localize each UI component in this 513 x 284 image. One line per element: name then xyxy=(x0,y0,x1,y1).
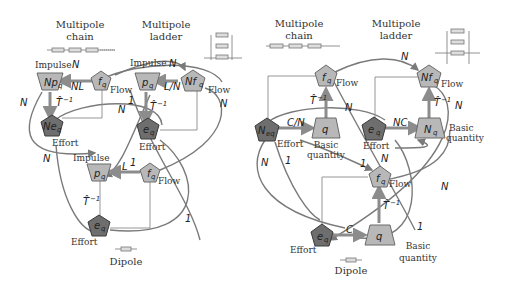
label-basic-quantity-l1: Basic xyxy=(449,123,474,133)
node-N-eq: Neq xyxy=(255,118,279,141)
label-flow: Flow xyxy=(389,179,412,189)
edge-label-N: N xyxy=(72,59,80,70)
svg-text:q: q xyxy=(150,129,155,137)
title-multipole-chain-l2: chain xyxy=(285,30,313,41)
left-panel: Multipole chain Multipole ladder xyxy=(20,19,242,267)
edge-label-L: L xyxy=(122,161,128,172)
label-flow: Flow xyxy=(208,85,231,95)
svg-text:q: q xyxy=(324,236,329,244)
edge-label-T-inv: T̂ xyxy=(83,195,90,207)
label-basic-quantity-l1: Basic xyxy=(314,140,339,150)
node-f-q-bot: fq xyxy=(369,166,391,187)
node-N-q: Nq xyxy=(415,118,445,138)
svg-text:−1: −1 xyxy=(390,199,400,207)
node-e-q-mid: eq xyxy=(362,117,386,140)
edge-label-T-inv: T̂ xyxy=(434,96,441,108)
label-impulse: Impulse xyxy=(73,153,109,163)
svg-text:q: q xyxy=(101,225,106,233)
node-e-q-mid: eq xyxy=(137,118,159,139)
node-Nf-q: Nfq xyxy=(417,65,441,87)
edge-label-N: N xyxy=(441,181,449,192)
node-q-top: q xyxy=(312,118,340,138)
edge-label-N: N xyxy=(455,100,463,111)
svg-text:q: q xyxy=(199,81,204,89)
chain-resistor-icon xyxy=(266,44,340,48)
svg-text:e: e xyxy=(94,220,100,231)
dipole-resistor-icon xyxy=(115,247,137,251)
edge-label-N: N xyxy=(118,104,126,115)
label-effort: Effort xyxy=(290,245,317,255)
edge-label-T-inv: T̂ xyxy=(310,94,317,106)
svg-text:−1: −1 xyxy=(157,100,167,108)
title-multipole-ladder-l1: Multipole xyxy=(372,18,421,29)
dipole-resistor-icon xyxy=(340,258,362,262)
edge-label-N: N xyxy=(20,97,28,108)
node-f-q-top: fq xyxy=(315,65,337,86)
svg-text:e: e xyxy=(143,124,149,135)
edge-label-N: N xyxy=(169,58,177,69)
bond-graph-diagram: Multipole chain Multipole ladder xyxy=(0,0,513,284)
node-q-bot: q xyxy=(365,225,395,245)
svg-text:p: p xyxy=(141,77,148,88)
title-multipole-ladder-l2: ladder xyxy=(150,31,183,42)
ladder-resistor-icon xyxy=(204,33,242,60)
title-multipole-chain-l1: Multipole xyxy=(56,19,105,30)
right-panel: Multipole chain Multipole ladder xyxy=(255,18,485,276)
svg-text:q: q xyxy=(57,126,62,134)
node-Nf-q: Nfq xyxy=(181,70,205,91)
svg-text:eq: eq xyxy=(266,130,275,138)
svg-text:N: N xyxy=(258,125,266,136)
edge-label-T-inv: T̂ xyxy=(383,199,390,211)
node-Np-q: Npq xyxy=(37,73,63,90)
label-effort: Effort xyxy=(363,141,390,151)
label-flow: Flow xyxy=(110,85,133,95)
svg-text:Nf: Nf xyxy=(421,72,433,83)
edge-label-1: 1 xyxy=(130,157,136,168)
svg-text:Nf: Nf xyxy=(185,76,197,87)
node-f-q-bot: fq xyxy=(140,163,160,182)
title-dipole: Dipole xyxy=(335,265,368,276)
svg-text:q: q xyxy=(381,178,386,186)
edge-label-1: 1 xyxy=(360,158,366,169)
edge-label-N: N xyxy=(381,153,389,164)
svg-text:q: q xyxy=(151,173,156,181)
label-impulse: Impulse xyxy=(35,60,71,70)
label-flow: Flow xyxy=(336,78,359,88)
svg-text:p: p xyxy=(93,168,100,179)
svg-text:q: q xyxy=(149,82,154,90)
svg-text:q: q xyxy=(101,173,106,181)
svg-text:Np: Np xyxy=(44,77,58,88)
edge-label-N: N xyxy=(345,102,353,113)
edge-label-LN: L/N xyxy=(164,81,181,92)
edge-label-N: N xyxy=(220,98,228,109)
label-flow: Flow xyxy=(441,79,464,89)
node-f-q-top: fq xyxy=(91,71,111,90)
label-effort: Effort xyxy=(277,139,304,149)
label-basic-quantity-l2: quantity xyxy=(307,150,346,160)
label-effort: Effort xyxy=(139,142,166,152)
edge-label-NL: NL xyxy=(71,81,84,92)
edge-label-NC: NC xyxy=(393,117,407,128)
node-e-q-bot: eq xyxy=(88,215,110,236)
title-dipole: Dipole xyxy=(110,256,143,267)
label-basic-quantity-l2: quantity xyxy=(446,133,485,143)
title-multipole-chain-l1: Multipole xyxy=(275,18,324,29)
label-effort: Effort xyxy=(71,237,98,247)
edge-label-1: 1 xyxy=(417,221,423,232)
svg-text:q: q xyxy=(322,124,328,135)
svg-text:q: q xyxy=(58,82,63,90)
edge-label-N: N xyxy=(261,157,269,168)
node-p-q-top: pq xyxy=(135,73,160,90)
svg-text:Ne: Ne xyxy=(43,121,57,132)
edge-link xyxy=(110,182,150,228)
chain-resistor-icon xyxy=(47,48,115,52)
node-p-q-bot: pq xyxy=(87,164,111,181)
edge-label-CN: C/N xyxy=(287,117,305,128)
edge-label-1: 1 xyxy=(185,213,191,224)
label-effort: Effort xyxy=(52,138,79,148)
edge-link xyxy=(322,177,368,225)
svg-text:−1: −1 xyxy=(317,94,327,102)
edge-curve xyxy=(160,88,222,170)
svg-text:q: q xyxy=(376,129,381,137)
svg-text:−1: −1 xyxy=(63,96,73,104)
